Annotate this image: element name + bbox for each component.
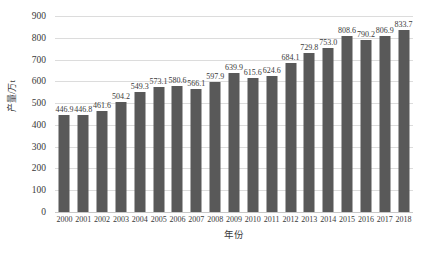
bar[interactable] [247, 78, 258, 212]
bar-slot: 504.2 [112, 16, 131, 212]
bar-slot: 790.2 [356, 16, 375, 212]
x-axis-tick-label: 2014 [320, 214, 336, 226]
y-axis-tick-label: 400 [32, 120, 46, 130]
bar[interactable] [115, 102, 126, 212]
bar[interactable] [304, 53, 315, 212]
y-axis-tick-label: 0 [41, 207, 46, 217]
bar-slot: 461.6 [93, 16, 112, 212]
bar-slot: 753.0 [319, 16, 338, 212]
bar-value-label: 729.8 [300, 43, 318, 52]
y-axis-tick-label: 800 [32, 33, 46, 43]
bar-slot: 580.6 [168, 16, 187, 212]
bar-value-label: 833.7 [395, 20, 413, 29]
bar[interactable] [228, 73, 239, 212]
y-axis-tick-label: 100 [32, 185, 46, 195]
bar[interactable] [210, 82, 221, 212]
x-axis-tick-label: 2015 [339, 214, 355, 226]
bar-value-label: 624.6 [263, 66, 281, 75]
bar-value-label: 597.9 [206, 72, 224, 81]
bar[interactable] [266, 76, 277, 212]
bar-value-label: 808.6 [338, 26, 356, 35]
gridline [55, 212, 413, 213]
y-axis-tick-label: 600 [32, 76, 46, 86]
bar-value-label: 461.6 [93, 101, 111, 110]
bar-value-label: 580.6 [168, 76, 186, 85]
x-axis-tick-label: 2001 [75, 214, 91, 226]
y-axis-tick-label: 200 [32, 163, 46, 173]
bar-slot: 729.8 [300, 16, 319, 212]
bar-value-label: 549.3 [131, 82, 149, 91]
bar-slot: 808.6 [338, 16, 357, 212]
x-axis-tick-label: 2009 [226, 214, 242, 226]
x-axis-tick-label: 2000 [56, 214, 72, 226]
y-axis-tick-label: 700 [32, 55, 46, 65]
bar-value-label: 504.2 [112, 92, 130, 101]
bar-slot: 549.3 [130, 16, 149, 212]
x-axis-tick-label: 2013 [301, 214, 317, 226]
bar-value-label: 684.1 [282, 53, 300, 62]
x-axis-tick-label: 2005 [151, 214, 167, 226]
x-axis-tick-label: 2004 [132, 214, 148, 226]
bar[interactable] [97, 111, 108, 212]
bar[interactable] [379, 36, 390, 212]
x-axis-title: 年份 [55, 228, 413, 242]
bar[interactable] [398, 30, 409, 212]
bar[interactable] [153, 87, 164, 212]
bar-series: 446.9446.8461.6504.2549.3573.1580.6566.1… [55, 16, 413, 212]
x-axis-tick-label: 2016 [358, 214, 374, 226]
bar-value-label: 790.2 [357, 30, 375, 39]
x-axis-tick-label: 2003 [113, 214, 129, 226]
bar-value-label: 566.1 [187, 79, 205, 88]
plot-area: 446.9446.8461.6504.2549.3573.1580.6566.1… [55, 16, 413, 212]
bar-value-label: 806.9 [376, 26, 394, 35]
bar-value-label: 615.6 [244, 68, 262, 77]
bar-slot: 684.1 [281, 16, 300, 212]
x-axis-tick-label: 2010 [245, 214, 261, 226]
bar[interactable] [342, 36, 353, 212]
bar-value-label: 446.8 [74, 105, 92, 114]
bar[interactable] [134, 92, 145, 212]
bar-value-label: 573.1 [150, 77, 168, 86]
bar-slot: 615.6 [243, 16, 262, 212]
bar-slot: 833.7 [394, 16, 413, 212]
x-axis-tick-label: 2017 [377, 214, 393, 226]
x-axis-tick-labels: 2000200120022003200420052006200720082009… [55, 214, 413, 228]
bar-value-label: 446.9 [55, 105, 73, 114]
x-axis-tick-label: 2012 [283, 214, 299, 226]
bar-slot: 597.9 [206, 16, 225, 212]
bar-slot: 446.9 [55, 16, 74, 212]
x-axis-tick-label: 2002 [94, 214, 110, 226]
bar-chart: 产量/万t 0100200300400500600700800900 446.9… [0, 0, 432, 261]
bar[interactable] [323, 48, 334, 212]
x-axis-tick-label: 2007 [188, 214, 204, 226]
x-axis-tick-label: 2018 [396, 214, 412, 226]
x-axis-tick-label: 2006 [169, 214, 185, 226]
y-axis-tick-label: 300 [32, 142, 46, 152]
bar[interactable] [78, 115, 89, 212]
bar-slot: 624.6 [262, 16, 281, 212]
x-axis-tick-label: 2011 [264, 214, 280, 226]
y-axis-tick-label: 500 [32, 98, 46, 108]
bar[interactable] [360, 40, 371, 212]
bar-slot: 446.8 [74, 16, 93, 212]
bar[interactable] [59, 115, 70, 212]
bar[interactable] [172, 86, 183, 212]
bar-value-label: 639.9 [225, 63, 243, 72]
bar-slot: 566.1 [187, 16, 206, 212]
bar-slot: 806.9 [375, 16, 394, 212]
bar-slot: 573.1 [149, 16, 168, 212]
y-axis-tick-labels: 0100200300400500600700800900 [0, 16, 52, 212]
bar-value-label: 753.0 [319, 38, 337, 47]
bar-slot: 639.9 [225, 16, 244, 212]
bar[interactable] [285, 63, 296, 212]
y-axis-tick-label: 900 [32, 11, 46, 21]
bar[interactable] [191, 89, 202, 212]
x-axis-tick-label: 2008 [207, 214, 223, 226]
